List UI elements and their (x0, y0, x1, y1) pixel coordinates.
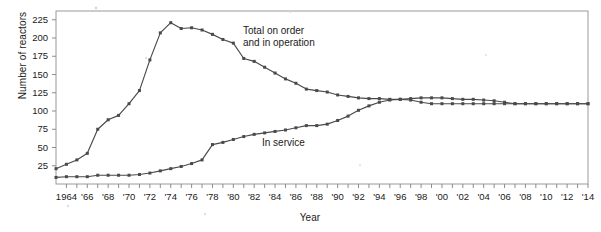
annotation-total-on-order: Total on order and in operation (243, 25, 315, 49)
chart-figure: Number of reactors Year 2550751001251501… (0, 0, 601, 232)
annotation-in-service: In service (262, 137, 305, 149)
y-tick-marks (52, 20, 56, 166)
series-in-service (55, 96, 590, 179)
series-total-on-order (55, 21, 590, 170)
annotation-total-line2: and in operation (243, 37, 315, 49)
plot-frame (56, 11, 588, 184)
x-tick-marks (66, 184, 588, 188)
data-series-group (55, 21, 590, 179)
annotation-in-service-text: In service (262, 137, 305, 149)
annotation-total-line1: Total on order (243, 25, 315, 37)
